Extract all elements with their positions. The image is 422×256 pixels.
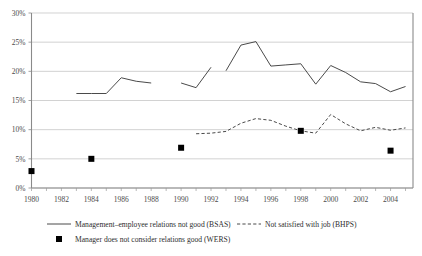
y-tick-label: 15%	[12, 96, 26, 105]
x-tick-label: 1992	[204, 195, 219, 204]
legend-label-bsas: Management–employee relations not good (…	[75, 220, 231, 229]
line-chart: 0%5%10%15%20%25%30% 19801982198419861988…	[0, 0, 422, 256]
y-tick-label: 5%	[16, 155, 26, 164]
x-tick-labels: 1980198219841986198819901992199419961998…	[24, 188, 406, 204]
x-tick-label: 1998	[293, 195, 308, 204]
bsas-line-segment	[76, 78, 151, 94]
chart-container: 0%5%10%15%20%25%30% 19801982198419861988…	[0, 0, 422, 256]
x-tick-label: 1982	[54, 195, 69, 204]
series-wers-markers	[29, 128, 394, 174]
x-tick-label: 2004	[383, 195, 398, 204]
legend-label-wers: Manager does not consider relations good…	[75, 235, 231, 244]
legend-square-marker-swatch	[56, 236, 62, 242]
wers-marker	[388, 148, 394, 154]
bsas-line-segment	[226, 42, 406, 92]
y-tick-label: 10%	[12, 125, 26, 134]
y-tick-label: 25%	[12, 38, 26, 47]
x-tick-label: 1994	[233, 195, 248, 204]
x-tick-label: 1984	[84, 195, 99, 204]
y-tick-label: 30%	[12, 9, 26, 18]
x-tick-label: 1990	[174, 195, 189, 204]
wers-marker	[88, 156, 94, 162]
y-tick-labels: 0%5%10%15%20%25%30%	[12, 9, 32, 193]
chart-legend: Management–employee relations not good (…	[47, 220, 357, 244]
x-tick-label: 1980	[24, 195, 39, 204]
wers-marker	[178, 145, 184, 151]
x-tick-label: 1988	[144, 195, 159, 204]
bsas-line-segment	[181, 67, 211, 87]
wers-marker	[298, 128, 304, 134]
wers-marker	[29, 168, 35, 174]
x-tick-label: 2002	[353, 195, 368, 204]
series-bsas-line	[76, 42, 405, 94]
legend-label-bhps: Not satisfied with job (BHPS)	[265, 220, 357, 229]
x-tick-label: 1996	[263, 195, 278, 204]
y-tick-label: 20%	[12, 67, 26, 76]
y-tick-label: 0%	[16, 184, 26, 193]
x-tick-label: 2000	[323, 195, 338, 204]
x-tick-label: 1986	[114, 195, 129, 204]
